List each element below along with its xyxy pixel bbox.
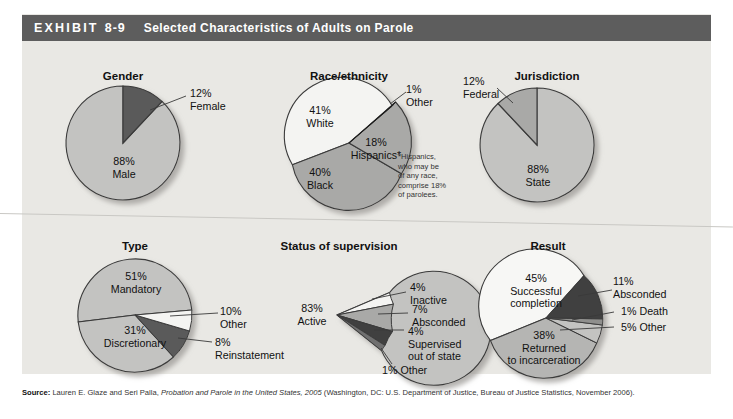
label-result-absconded: 11% Absconded xyxy=(613,275,666,300)
chart-title-status: Status of supervision xyxy=(274,240,404,252)
leader-race-other xyxy=(390,92,406,104)
footnote-line-2: who may be xyxy=(398,162,439,171)
label-result-returned-name1: Returned xyxy=(522,342,566,354)
label-type-discretionary: 31% Discretionary xyxy=(84,324,186,349)
label-jurisdiction-federal-name: Federal xyxy=(463,88,499,100)
label-race-other-pct: 1% xyxy=(406,83,421,95)
chart-title-jurisdiction: Jurisdiction xyxy=(501,70,593,82)
label-result-death: 1% Death xyxy=(621,305,668,318)
label-race-white-pct: 41% xyxy=(309,104,330,116)
label-status-inactive-pct: 4% xyxy=(410,281,425,293)
chart-title-type: Type xyxy=(110,240,160,252)
chart-title-gender: Gender xyxy=(93,70,153,82)
label-result-success-name1: Successful xyxy=(510,285,562,297)
label-type-mandatory-name: Mandatory xyxy=(111,283,162,295)
footnote-line-3: of any race, xyxy=(398,171,438,180)
label-race-black-name: Black xyxy=(307,179,333,191)
label-type-mandatory: 51% Mandatory xyxy=(92,270,180,295)
label-race-black-pct: 40% xyxy=(309,166,330,178)
label-type-mandatory-pct: 51% xyxy=(125,270,146,282)
pie-charts-canvas xyxy=(0,0,733,419)
label-result-returned-pct: 38% xyxy=(533,329,554,341)
source-authors: Lauren E. Glaze and Seri Palla, xyxy=(50,388,161,397)
label-type-other-name: Other xyxy=(220,318,247,330)
label-type-reinstatement-pct: 8% xyxy=(215,336,230,348)
label-result-absconded-pct: 11% xyxy=(613,275,634,287)
label-jurisdiction-state-name: State xyxy=(526,176,551,188)
label-type-discretionary-pct: 31% xyxy=(124,324,145,336)
label-race-other-name: Other xyxy=(406,96,433,108)
label-status-absconded-pct: 7% xyxy=(412,303,427,315)
footnote-hispanics: *Hispanics, who may be of any race, comp… xyxy=(398,152,446,200)
label-race-white: 41% White xyxy=(294,104,346,129)
label-result-success-pct: 45% xyxy=(525,272,546,284)
label-race-black: 40% Black xyxy=(294,166,346,191)
label-gender-female: 12% Female xyxy=(190,87,226,112)
label-result-returned: 38% Returned to incarceration xyxy=(483,329,605,367)
label-result-other: 5% Other xyxy=(621,321,666,334)
label-gender-male-pct: 88% xyxy=(113,155,134,167)
label-status-supervised: 4% Supervised out of state xyxy=(408,325,461,363)
label-gender-male-name: Male xyxy=(112,168,135,180)
chart-title-race: Race/ethnicity xyxy=(299,70,399,82)
label-gender-female-name: Female xyxy=(190,100,226,112)
footnote-line-5: of parolees. xyxy=(398,190,438,199)
label-gender-female-pct: 12% xyxy=(190,87,211,99)
label-result-absconded-name: Absconded xyxy=(613,288,666,300)
label-result-success: 45% Successful completion xyxy=(490,272,582,310)
label-status-supervised-name1: Supervised xyxy=(408,338,461,350)
source-prefix: Source: xyxy=(22,388,50,397)
label-status-other: 1% Other xyxy=(382,364,427,377)
label-race-other: 1% Other xyxy=(406,83,433,108)
label-type-other: 10% Other xyxy=(220,305,247,330)
label-jurisdiction-state: 88% State xyxy=(511,163,565,188)
label-status-active-pct: 83% xyxy=(301,302,322,314)
label-jurisdiction-federal: 12% Federal xyxy=(463,75,499,100)
footnote-line-1: *Hispanics, xyxy=(398,152,436,161)
label-type-discretionary-name: Discretionary xyxy=(104,337,166,349)
label-gender-male: 88% Male xyxy=(97,155,151,180)
label-type-other-pct: 10% xyxy=(220,305,241,317)
label-type-reinstatement: 8% Reinstatement xyxy=(215,336,284,361)
label-race-hispanics-pct: 18% xyxy=(365,136,386,148)
chart-title-result: Result xyxy=(518,240,578,252)
exhibit-figure: EXHIBIT 8-9 Selected Characteristics of … xyxy=(0,0,733,419)
label-jurisdiction-federal-pct: 12% xyxy=(463,75,484,87)
label-status-active: 83% Active xyxy=(284,302,340,327)
source-work: Probation and Parole in the United State… xyxy=(161,388,322,397)
label-race-white-name: White xyxy=(306,117,333,129)
footnote-line-4: comprise 18% xyxy=(398,181,446,190)
label-type-reinstatement-name: Reinstatement xyxy=(215,349,284,361)
pie-gender xyxy=(66,86,180,200)
source-line: Source: Lauren E. Glaze and Seri Palla, … xyxy=(22,388,722,398)
label-result-success-name2: completion xyxy=(510,297,562,309)
label-race-hispanics-name: Hispanics* xyxy=(351,149,402,161)
label-jurisdiction-state-pct: 88% xyxy=(527,163,548,175)
label-status-active-name: Active xyxy=(297,315,326,327)
source-publisher: (Washington, DC: U.S. Department of Just… xyxy=(322,388,635,397)
label-status-supervised-name2: out of state xyxy=(408,350,461,362)
label-status-supervised-pct: 4% xyxy=(408,325,423,337)
label-result-returned-name2: to incarceration xyxy=(507,354,580,366)
